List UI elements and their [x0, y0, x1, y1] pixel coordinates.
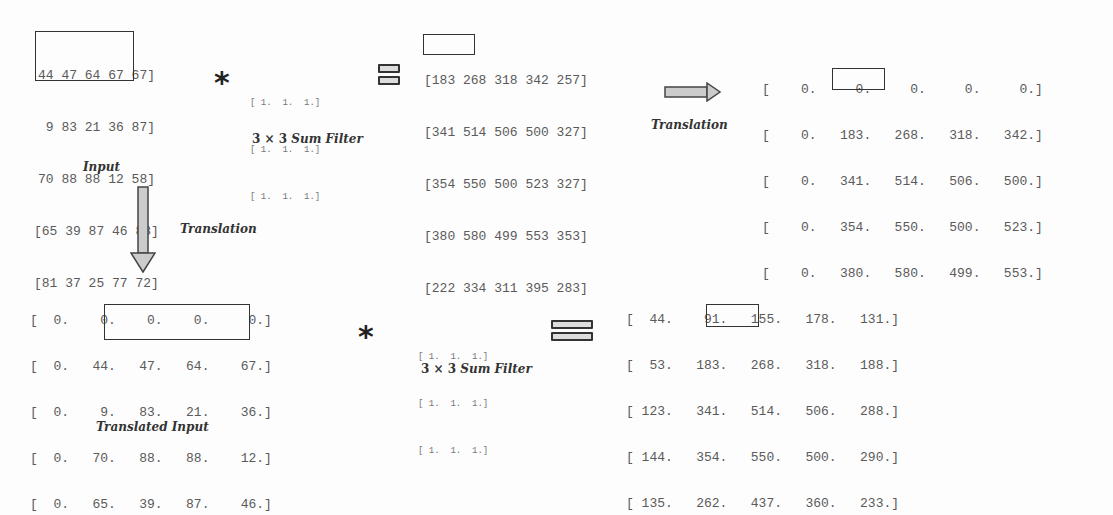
matrix-row: [ 0. 9. 83. 21. 36.] — [30, 405, 272, 421]
translated-output-highlight-box — [832, 68, 885, 90]
matrix-row: [ 0. 65. 39. 87. 46.] — [30, 497, 272, 513]
arrow-down-icon — [130, 186, 156, 274]
matrix-row: [183 268 318 342 257] — [424, 73, 588, 89]
matrix-row: [ 0. 341. 514. 506. 500.] — [762, 174, 1043, 190]
input-label: Input — [83, 160, 120, 174]
matrix-row: [222 334 311 395 283] — [424, 281, 588, 297]
arrow-right-icon — [664, 82, 722, 102]
matrix-row: [ 0. 44. 47. 64. 67.] — [30, 359, 272, 375]
convolve-operator-bottom: * — [358, 322, 374, 352]
matrix-row: [341 514 506 500 327] — [424, 125, 588, 141]
matrix-row: [ 135. 262. 437. 360. 233.] — [626, 496, 899, 512]
matrix-row: [ 0. 70. 88. 88. 12.] — [30, 451, 272, 467]
convolve-operator: * — [214, 68, 230, 98]
matrix-row: [ 0. 183. 268. 318. 342.] — [762, 128, 1043, 144]
sum-filter-matrix-bottom: [ 1. 1. 1.] [ 1. 1. 1.] [ 1. 1. 1.] — [418, 316, 488, 475]
matrix-row: [ 1. 1. 1.] — [250, 98, 320, 109]
matrix-row: [ 1. 1. 1.] — [250, 145, 320, 156]
matrix-row: [ 144. 354. 550. 500. 290.] — [626, 450, 899, 466]
matrix-row: [ 0. 354. 550. 500. 523.] — [762, 220, 1043, 236]
output-top-highlight-box — [423, 34, 475, 55]
output-matrix-bottom: [ 44. 91. 155. 178. 131.] [ 53. 183. 268… — [626, 282, 899, 515]
sum-filter-label-bottom: 3 × 3 Sum Filter — [421, 362, 532, 376]
output-bottom-highlight-box — [706, 304, 759, 327]
translated-output-matrix: [ 0. 0. 0. 0. 0.] [ 0. 183. 268. 318. 34… — [762, 52, 1043, 297]
equals-icon — [378, 64, 400, 85]
input-highlight-box — [35, 31, 134, 81]
matrix-row: [354 550 500 523 327] — [424, 177, 588, 193]
matrix-row: [ 53. 183. 268. 318. 188.] — [626, 358, 899, 374]
matrix-row: [ 1. 1. 1.] — [418, 399, 488, 410]
matrix-row: [ 0. 380. 580. 499. 553.] — [762, 266, 1043, 282]
matrix-row: [ 123. 341. 514. 506. 288.] — [626, 404, 899, 420]
matrix-row: [ 44. 91. 155. 178. 131.] — [626, 312, 899, 328]
translated-input-highlight-box — [104, 304, 250, 340]
matrix-row: [380 580 499 553 353] — [424, 229, 588, 245]
translation-label-down: Translation — [180, 222, 257, 236]
matrix-row: 9 83 21 36 87] — [34, 120, 159, 136]
equals-icon-bottom — [551, 320, 593, 341]
matrix-row: [ 0. 0. 0. 0. 0.] — [762, 82, 1043, 98]
translation-label-right: Translation — [651, 118, 728, 132]
translated-input-label: Translated Input — [96, 420, 209, 434]
output-matrix-top: [183 268 318 342 257] [341 514 506 500 3… — [424, 37, 588, 315]
sum-filter-label-top: 3 × 3 Sum Filter — [252, 132, 363, 146]
matrix-row: [ 1. 1. 1.] — [250, 192, 320, 203]
matrix-row: [ 1. 1. 1.] — [418, 446, 488, 457]
